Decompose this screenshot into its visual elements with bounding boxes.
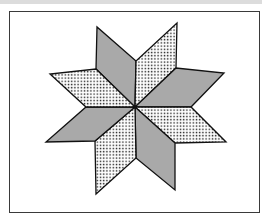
star-center-point xyxy=(133,105,136,108)
star-pieces xyxy=(46,23,226,194)
eight-point-star xyxy=(0,0,262,220)
